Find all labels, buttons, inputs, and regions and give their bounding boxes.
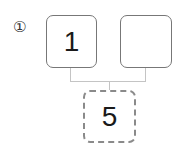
bottom-result-value: 5 — [102, 101, 118, 133]
bottom-result-box: 5 — [83, 90, 136, 143]
top-right-box[interactable] — [120, 15, 172, 68]
connector-left-vertical — [70, 68, 71, 82]
top-left-box: 1 — [46, 15, 97, 68]
top-left-value: 1 — [64, 26, 80, 58]
problem-number-label: ① — [13, 18, 26, 36]
connector-horizontal — [70, 81, 146, 82]
connector-right-vertical — [145, 68, 146, 82]
